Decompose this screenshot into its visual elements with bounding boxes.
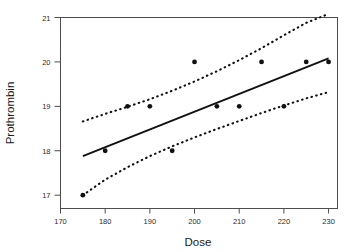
x-tick-label: 210 <box>233 217 246 226</box>
x-tick-label: 200 <box>188 217 201 226</box>
data-point <box>259 60 264 65</box>
y-tick-label: 21 <box>42 14 50 23</box>
figure-background <box>0 0 355 252</box>
data-point <box>125 104 130 109</box>
x-axis-title: Dose <box>185 236 212 248</box>
x-tick-label: 180 <box>99 217 112 226</box>
plot-canvas: 170180190200210220230 1718192021 Dose Pr… <box>0 0 355 252</box>
data-point <box>80 193 85 198</box>
y-axis-title: Prothrombin <box>4 82 16 145</box>
data-point <box>170 148 175 153</box>
scatter-plot-figure: 170180190200210220230 1718192021 Dose Pr… <box>0 0 355 252</box>
data-point <box>192 60 197 65</box>
data-point <box>147 104 152 109</box>
x-tick-label: 230 <box>322 217 335 226</box>
data-point <box>214 104 219 109</box>
data-point <box>103 148 108 153</box>
y-tick-label: 17 <box>42 191 50 200</box>
y-tick-label: 19 <box>42 102 50 111</box>
data-point <box>326 60 331 65</box>
data-point <box>237 104 242 109</box>
data-point <box>304 60 309 65</box>
x-tick-label: 220 <box>278 217 291 226</box>
data-point <box>281 104 286 109</box>
x-tick-label: 190 <box>144 217 157 226</box>
y-tick-label: 18 <box>42 147 50 156</box>
y-tick-label: 20 <box>42 58 50 67</box>
x-tick-label: 170 <box>54 217 67 226</box>
